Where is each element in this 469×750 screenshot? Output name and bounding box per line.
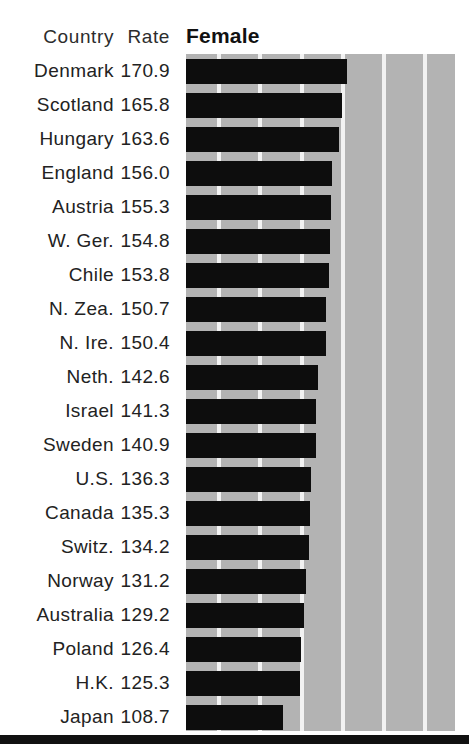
row-rate-value: 170.9 (118, 60, 170, 82)
row-country-label: H.K. (0, 672, 114, 694)
row-country-label: N. Ire. (0, 332, 114, 354)
bar (186, 671, 300, 696)
table-row[interactable]: Canada135.3 (0, 496, 469, 530)
bar (186, 195, 331, 220)
row-country-label: Chile (0, 264, 114, 286)
row-country-label: W. Ger. (0, 230, 114, 252)
row-rate-value: 126.4 (118, 638, 170, 660)
bar-rows: Denmark170.9Scotland165.8Hungary163.6Eng… (0, 0, 469, 750)
table-row[interactable]: Israel141.3 (0, 394, 469, 428)
row-rate-value: 154.8 (118, 230, 170, 252)
row-rate-value: 136.3 (118, 468, 170, 490)
row-country-label: England (0, 162, 114, 184)
bar (186, 331, 326, 356)
row-country-label: Hungary (0, 128, 114, 150)
row-rate-value: 163.6 (118, 128, 170, 150)
row-rate-value: 135.3 (118, 502, 170, 524)
row-country-label: Sweden (0, 434, 114, 456)
row-rate-value: 131.2 (118, 570, 170, 592)
table-row[interactable]: Poland126.4 (0, 632, 469, 666)
row-country-label: Israel (0, 400, 114, 422)
row-country-label: Poland (0, 638, 114, 660)
table-row[interactable]: Denmark170.9 (0, 54, 469, 88)
bar (186, 161, 332, 186)
row-rate-value: 156.0 (118, 162, 170, 184)
table-row[interactable]: H.K.125.3 (0, 666, 469, 700)
bar (186, 229, 330, 254)
bar (186, 365, 318, 390)
table-row[interactable]: N. Ire.150.4 (0, 326, 469, 360)
row-rate-value: 150.7 (118, 298, 170, 320)
table-row[interactable]: Austria155.3 (0, 190, 469, 224)
bar (186, 399, 316, 424)
table-row[interactable]: U.S.136.3 (0, 462, 469, 496)
row-country-label: Neth. (0, 366, 114, 388)
row-country-label: Austria (0, 196, 114, 218)
row-rate-value: 142.6 (118, 366, 170, 388)
table-row[interactable]: N. Zea.150.7 (0, 292, 469, 326)
bar (186, 569, 306, 594)
row-country-label: Norway (0, 570, 114, 592)
row-country-label: Japan (0, 706, 114, 728)
row-country-label: N. Zea. (0, 298, 114, 320)
bar (186, 433, 316, 458)
bar (186, 637, 301, 662)
bar (186, 93, 342, 118)
row-rate-value: 140.9 (118, 434, 170, 456)
row-rate-value: 108.7 (118, 706, 170, 728)
row-rate-value: 125.3 (118, 672, 170, 694)
row-rate-value: 141.3 (118, 400, 170, 422)
bottom-rule (0, 735, 469, 744)
table-row[interactable]: England156.0 (0, 156, 469, 190)
table-row[interactable]: Neth.142.6 (0, 360, 469, 394)
bar (186, 297, 326, 322)
row-country-label: Scotland (0, 94, 114, 116)
table-row[interactable]: Scotland165.8 (0, 88, 469, 122)
table-row[interactable]: Japan108.7 (0, 700, 469, 734)
row-rate-value: 134.2 (118, 536, 170, 558)
row-country-label: Australia (0, 604, 114, 626)
row-rate-value: 129.2 (118, 604, 170, 626)
table-row[interactable]: W. Ger.154.8 (0, 224, 469, 258)
chart-root: Country Rate Female Denmark170.9Scotland… (0, 0, 469, 750)
row-country-label: Denmark (0, 60, 114, 82)
row-country-label: Switz. (0, 536, 114, 558)
table-row[interactable]: Sweden140.9 (0, 428, 469, 462)
bar (186, 467, 311, 492)
bar (186, 59, 347, 84)
bar (186, 603, 304, 628)
row-country-label: U.S. (0, 468, 114, 490)
row-rate-value: 153.8 (118, 264, 170, 286)
table-row[interactable]: Hungary163.6 (0, 122, 469, 156)
bar (186, 535, 309, 560)
row-rate-value: 165.8 (118, 94, 170, 116)
row-country-label: Canada (0, 502, 114, 524)
row-rate-value: 150.4 (118, 332, 170, 354)
table-row[interactable]: Norway131.2 (0, 564, 469, 598)
bar (186, 263, 329, 288)
table-row[interactable]: Switz.134.2 (0, 530, 469, 564)
table-row[interactable]: Australia129.2 (0, 598, 469, 632)
table-row[interactable]: Chile153.8 (0, 258, 469, 292)
row-rate-value: 155.3 (118, 196, 170, 218)
bar (186, 127, 339, 152)
bar (186, 705, 283, 730)
bar (186, 501, 310, 526)
